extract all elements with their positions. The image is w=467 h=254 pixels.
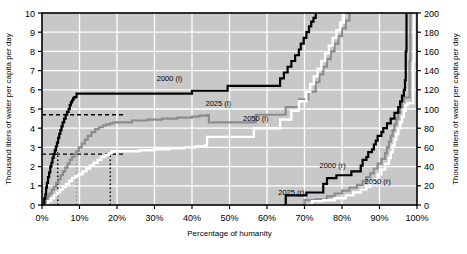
y-axis-title-right: Thousand liters of water per capita per …	[451, 33, 460, 185]
y-tick-label-left: 0	[30, 201, 35, 211]
water-distribution-chart: 0%10%20%30%40%50%60%70%80%90%100%0123456…	[0, 0, 467, 254]
x-tick-label: 0%	[35, 213, 48, 223]
y-axis-title-left: Thousand liters of water per capita per …	[4, 33, 13, 185]
chart-canvas: 0%10%20%30%40%50%60%70%80%90%100%0123456…	[0, 0, 467, 254]
y-tick-label-right: 60	[424, 143, 434, 153]
y-tick-label-right: 100	[424, 105, 439, 115]
y-tick-label-left: 4	[30, 124, 35, 134]
annotation-2025-l-: 2025 (l)	[206, 99, 232, 108]
annotation-2025-r-: 2025 (r)	[278, 188, 305, 197]
x-tick-label: 20%	[108, 213, 126, 223]
y-tick-label-right: 20	[424, 181, 434, 191]
x-tick-label: 60%	[258, 213, 276, 223]
annotation-2050-l-: 2050 (l)	[243, 114, 269, 123]
x-tick-label: 50%	[220, 213, 238, 223]
x-tick-label: 70%	[295, 213, 313, 223]
x-tick-label: 30%	[145, 213, 163, 223]
annotation-2000-l-: 2000 (l)	[157, 74, 183, 83]
chart-container: 0%10%20%30%40%50%60%70%80%90%100%0123456…	[0, 0, 467, 254]
y-tick-label-left: 7	[30, 66, 35, 76]
y-tick-label-right: 80	[424, 124, 434, 134]
annotation-2000-r-: 2000 (r)	[319, 161, 346, 170]
y-tick-label-right: 40	[424, 162, 434, 172]
y-tick-label-left: 6	[30, 85, 35, 95]
y-tick-label-left: 8	[30, 47, 35, 57]
y-tick-label-right: 200	[424, 9, 439, 19]
x-tick-label: 40%	[183, 213, 201, 223]
y-tick-label-left: 2	[30, 162, 35, 172]
y-tick-label-left: 1	[30, 181, 35, 191]
x-tick-label: 10%	[70, 213, 88, 223]
y-tick-label-left: 3	[30, 143, 35, 153]
y-tick-label-right: 140	[424, 66, 439, 76]
y-tick-label-right: 0	[424, 201, 429, 211]
y-tick-label-right: 180	[424, 28, 439, 38]
x-tick-label: 80%	[333, 213, 351, 223]
y-tick-label-left: 10	[25, 9, 35, 19]
y-tick-label-right: 120	[424, 85, 439, 95]
x-tick-label: 90%	[370, 213, 388, 223]
y-tick-label-right: 160	[424, 47, 439, 57]
y-tick-label-left: 9	[30, 28, 35, 38]
y-tick-label-left: 5	[30, 105, 35, 115]
x-axis-title: Percentage of humanity	[187, 229, 272, 238]
annotation-2050-r-: 2050 (r)	[364, 177, 391, 186]
x-tick-label: 100%	[405, 213, 428, 223]
